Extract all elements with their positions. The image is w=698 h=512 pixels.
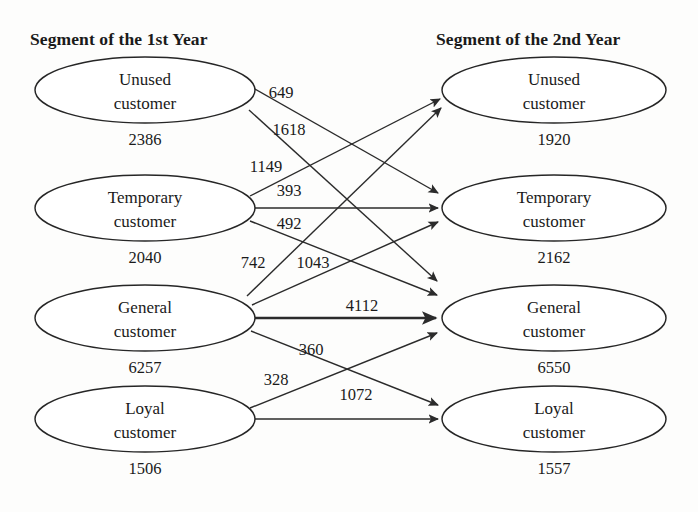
node-label-line2: customer xyxy=(114,322,177,341)
edge-label-1072: 1072 xyxy=(340,385,373,404)
edge-label-742: 742 xyxy=(241,253,266,272)
edge-label-4112: 4112 xyxy=(346,296,378,315)
node-label-line2: customer xyxy=(523,423,586,442)
node-count: 2386 xyxy=(129,130,162,149)
diagram-canvas: Segment of the 1st Year Segment of the 2… xyxy=(0,0,698,512)
edge-unused-to-temporary xyxy=(253,88,438,193)
node-ellipse xyxy=(442,285,666,351)
node-label-line2: customer xyxy=(114,212,177,231)
node-ellipse xyxy=(35,57,255,123)
node-temporary-year1[interactable]: Temporary customer 2040 xyxy=(35,175,255,267)
node-label-line1: Unused xyxy=(119,70,171,89)
node-count: 6257 xyxy=(129,358,162,377)
node-ellipse xyxy=(35,175,255,241)
edge-label-393: 393 xyxy=(277,181,302,200)
edge-label-492: 492 xyxy=(277,214,302,233)
node-label-line2: customer xyxy=(523,322,586,341)
edge-label-360: 360 xyxy=(299,340,324,359)
node-ellipse xyxy=(442,386,666,452)
node-label-line1: General xyxy=(118,298,172,317)
node-ellipse xyxy=(442,175,666,241)
node-ellipse xyxy=(35,285,255,351)
node-general-year1[interactable]: General customer 6257 xyxy=(35,285,255,377)
right-column-title: Segment of the 2nd Year xyxy=(436,29,621,49)
node-label-line2: customer xyxy=(523,212,586,231)
node-loyal-year1[interactable]: Loyal customer 1506 xyxy=(35,386,255,478)
node-label-line1: Unused xyxy=(528,70,580,89)
node-count: 1506 xyxy=(129,459,162,478)
node-general-year2[interactable]: General customer 6550 xyxy=(442,285,666,377)
node-ellipse xyxy=(35,386,255,452)
node-ellipse xyxy=(442,57,666,123)
flow-edge-labels: 649 1618 1149 393 492 742 1043 4112 360 … xyxy=(241,83,379,404)
edge-label-328: 328 xyxy=(264,370,289,389)
customer-transition-diagram: Segment of the 1st Year Segment of the 2… xyxy=(0,0,698,512)
node-count: 2162 xyxy=(538,248,571,267)
edge-label-1149: 1149 xyxy=(250,157,282,176)
node-unused-year1[interactable]: Unused customer 2386 xyxy=(35,57,255,149)
node-label-line2: customer xyxy=(114,423,177,442)
edge-label-649: 649 xyxy=(269,83,294,102)
node-label-line1: Loyal xyxy=(125,399,165,418)
node-label-line1: Temporary xyxy=(108,188,183,207)
node-count: 2040 xyxy=(129,248,162,267)
node-loyal-year2[interactable]: Loyal customer 1557 xyxy=(442,386,666,478)
node-count: 1557 xyxy=(538,459,571,478)
node-label-line2: customer xyxy=(114,94,177,113)
node-label-line1: Loyal xyxy=(534,399,574,418)
node-count: 6550 xyxy=(538,358,571,377)
node-temporary-year2[interactable]: Temporary customer 2162 xyxy=(442,175,666,267)
node-label-line1: General xyxy=(527,298,581,317)
node-unused-year2[interactable]: Unused customer 1920 xyxy=(442,57,666,149)
edge-label-1043: 1043 xyxy=(297,253,330,272)
node-label-line2: customer xyxy=(523,94,586,113)
edge-label-1618: 1618 xyxy=(273,120,306,139)
node-label-line1: Temporary xyxy=(517,188,592,207)
node-count: 1920 xyxy=(538,130,571,149)
left-column-title: Segment of the 1st Year xyxy=(30,29,208,49)
